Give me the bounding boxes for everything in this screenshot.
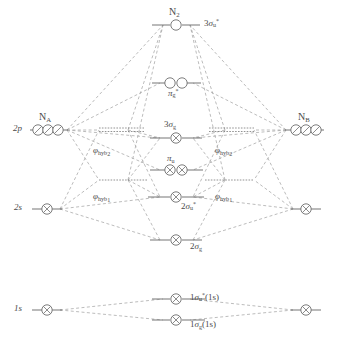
correlation-lines (60, 25, 293, 320)
label-phi-hyb1-left: φhyb1 (93, 192, 110, 203)
orbital-2p-right-1 (291, 125, 301, 135)
orbital-2sigma-g (171, 235, 181, 245)
label-phi-hyb1-right: φhyb1 (215, 192, 232, 203)
orbital-2p-left-1 (33, 125, 43, 135)
label-3sigma-g: 3σg (164, 120, 176, 130)
orbital-3sigma-g (171, 133, 181, 143)
label-phi-hyb2-left: φhyb2 (93, 146, 110, 157)
orbital-1sigma-g-1s (171, 315, 181, 325)
orbital-2p-left-2 (43, 125, 53, 135)
orbital-2s-left (42, 204, 52, 214)
orbital-3sigma-u-star (171, 20, 181, 30)
label-1sigma-g-1s: 1σg(1s) (190, 320, 216, 330)
orbital-2p-right-2 (301, 125, 311, 135)
label-2p-left: 2p (13, 124, 22, 133)
label-2sigma-g: 2σg (190, 242, 202, 252)
mo-diagram-canvas: N2 3σu* πg* 3σg πu 2σu* 2σg 1σu*(1s) 1σg… (0, 0, 353, 349)
orbital-2p-left-3 (53, 125, 63, 135)
orbital-1s-left (42, 305, 52, 315)
label-molecule-n2: N2 (169, 7, 180, 19)
orbital-1s-right (301, 305, 311, 315)
label-3sigma-u-star: 3σu* (204, 18, 219, 28)
orbital-pi-u-1 (165, 165, 175, 175)
mo-diagram-svg (0, 0, 353, 349)
orbital-pi-u-2 (177, 165, 187, 175)
label-pi-u: πu (167, 154, 175, 164)
orbital-2s-right (301, 204, 311, 214)
orbital-pi-g-star-2 (177, 78, 187, 88)
label-2s-left: 2s (14, 203, 22, 212)
label-atom-a: NA (39, 112, 51, 124)
orbital-1sigma-u-star-1s (171, 294, 181, 304)
label-1sigma-u-star-1s: 1σu*(1s) (190, 292, 219, 302)
label-2sigma-u-star: 2σu* (181, 201, 196, 211)
orbital-2sigma-u-star (171, 192, 181, 202)
label-phi-hyb2-right: φhyb2 (215, 146, 232, 157)
label-pi-g-star: πg* (168, 88, 179, 98)
label-atom-b: NB (298, 112, 310, 124)
orbital-occupancy-circles (33, 20, 321, 325)
orbital-2p-right-3 (311, 125, 321, 135)
label-1s-left: 1s (14, 304, 22, 313)
